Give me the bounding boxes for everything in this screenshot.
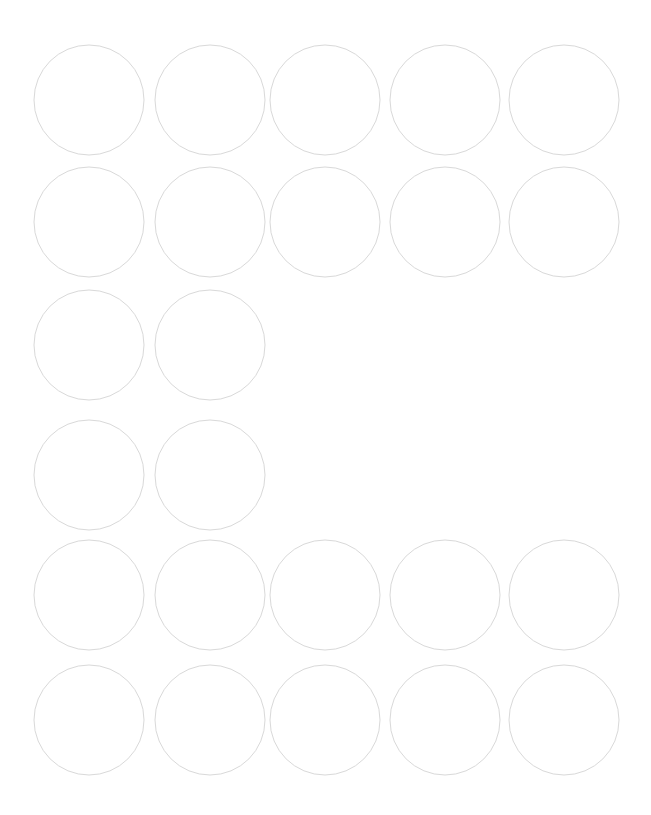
label-circle-r3c1[interactable] <box>34 290 144 400</box>
label-circle-r6c5[interactable] <box>509 665 619 775</box>
label-circle-r6c3[interactable] <box>270 665 380 775</box>
label-circle-r4c2[interactable] <box>155 420 265 530</box>
label-circle-r2c4[interactable] <box>390 167 500 277</box>
label-circle-r5c5[interactable] <box>509 540 619 650</box>
label-circle-r4c1[interactable] <box>34 420 144 530</box>
label-circle-r1c4[interactable] <box>390 45 500 155</box>
label-circle-r5c1[interactable] <box>34 540 144 650</box>
label-sheet-page <box>0 0 651 815</box>
label-sheet-canvas <box>0 0 651 815</box>
label-circle-r2c2[interactable] <box>155 167 265 277</box>
label-circle-r2c5[interactable] <box>509 167 619 277</box>
label-circle-r3c2[interactable] <box>155 290 265 400</box>
label-circle-r6c1[interactable] <box>34 665 144 775</box>
label-circle-r5c4[interactable] <box>390 540 500 650</box>
label-circle-r1c2[interactable] <box>155 45 265 155</box>
label-circle-r2c3[interactable] <box>270 167 380 277</box>
label-circle-r5c3[interactable] <box>270 540 380 650</box>
label-circle-r1c5[interactable] <box>509 45 619 155</box>
label-circle-r5c2[interactable] <box>155 540 265 650</box>
label-circle-r1c1[interactable] <box>34 45 144 155</box>
label-circle-r2c1[interactable] <box>34 167 144 277</box>
label-circle-r1c3[interactable] <box>270 45 380 155</box>
label-circle-r6c4[interactable] <box>390 665 500 775</box>
label-circle-r6c2[interactable] <box>155 665 265 775</box>
